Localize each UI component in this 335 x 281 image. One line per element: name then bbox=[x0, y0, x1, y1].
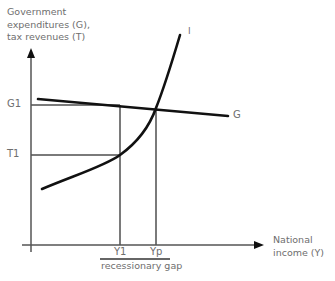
x-axis-label: National income (Y) bbox=[273, 233, 324, 259]
x-axis-arrow-icon bbox=[254, 241, 264, 249]
tax-curve-label: I bbox=[188, 26, 191, 36]
y-axis-arrow-icon bbox=[27, 48, 35, 58]
government-expenditure-line bbox=[38, 99, 228, 116]
y-axis-label: Government expenditures (G), tax revenue… bbox=[7, 6, 90, 44]
y-axis-label-line-3: tax revenues (T) bbox=[7, 31, 90, 44]
t1-tick-label: T1 bbox=[7, 148, 19, 159]
x-axis-label-line-2: income (Y) bbox=[273, 246, 324, 259]
y-axis-label-line-2: expenditures (G), bbox=[7, 19, 90, 32]
x-axis-label-line-1: National bbox=[273, 233, 324, 246]
yp-tick-label: Yp bbox=[150, 246, 162, 257]
y1-tick-label: Y1 bbox=[114, 246, 126, 257]
government-line-label: G bbox=[233, 109, 241, 120]
g1-tick-label: G1 bbox=[7, 98, 21, 109]
tax-revenue-curve bbox=[42, 35, 180, 189]
y-axis-label-line-1: Government bbox=[7, 6, 90, 19]
recessionary-gap-label: recessionary gap bbox=[101, 260, 182, 271]
